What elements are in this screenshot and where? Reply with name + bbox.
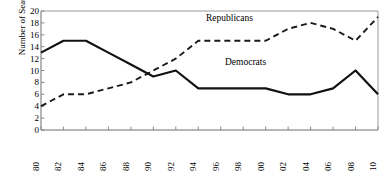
plot-frame (41, 11, 378, 130)
x-tick-label-text: 1982 (54, 162, 63, 171)
y-tick-6: 6 (35, 90, 40, 99)
x-tick-label-text: 1980 (32, 162, 41, 171)
x-tick-2008: 2008 (350, 135, 361, 171)
series-annotation-republicans: Republicans (206, 13, 253, 23)
y-tick-12: 12 (30, 54, 39, 63)
line-chart: Number of Seats 02468101214161820 Republ… (0, 0, 392, 171)
series-line-democrats (41, 41, 378, 95)
plot-area (41, 11, 378, 130)
x-tick-1992: 1992 (170, 135, 181, 171)
x-tick-label-text: 1984 (77, 162, 86, 171)
x-tick-1996: 1996 (215, 135, 226, 171)
axis-tick-marks (41, 11, 378, 130)
x-tick-label-text: 2006 (324, 162, 333, 171)
y-tick-10: 10 (30, 66, 39, 75)
x-axis-tick-labels: 1980198219841986198819901992199419961998… (41, 133, 378, 171)
x-tick-label-text: 1988 (122, 162, 131, 171)
x-tick-2000: 2000 (260, 135, 271, 171)
y-tick-0: 0 (35, 126, 40, 135)
series-line-republicans (41, 17, 378, 106)
y-tick-16: 16 (30, 30, 39, 39)
x-tick-1998: 1998 (238, 135, 249, 171)
x-tick-label-text: 2000 (257, 162, 266, 171)
x-tick-1986: 1986 (103, 135, 114, 171)
x-tick-2002: 2002 (283, 135, 294, 171)
x-tick-1988: 1988 (125, 135, 136, 171)
x-tick-label-text: 2002 (279, 162, 288, 171)
y-tick-18: 18 (30, 18, 39, 27)
x-tick-1994: 1994 (193, 135, 204, 171)
x-tick-label-text: 2010 (369, 162, 378, 171)
x-tick-1982: 1982 (58, 135, 69, 171)
x-tick-label-text: 2008 (347, 162, 356, 171)
plot-svg (41, 11, 378, 130)
y-tick-2: 2 (35, 114, 40, 123)
x-tick-1984: 1984 (80, 135, 91, 171)
x-tick-label-text: 1990 (144, 162, 153, 171)
x-tick-1990: 1990 (148, 135, 159, 171)
series-annotation-democrats: Democrats (225, 57, 266, 67)
y-axis-tick-labels: 02468101214161820 (22, 6, 39, 134)
x-tick-label-text: 1996 (212, 162, 221, 171)
x-tick-label-text: 2004 (302, 162, 311, 171)
x-tick-label-text: 1986 (99, 162, 108, 171)
x-tick-2006: 2006 (328, 135, 339, 171)
x-tick-label-text: 1998 (234, 162, 243, 171)
x-tick-1980: 1980 (36, 135, 47, 171)
x-tick-label-text: 1994 (189, 162, 198, 171)
x-tick-2010: 2010 (373, 135, 384, 171)
y-tick-20: 20 (30, 7, 39, 16)
y-tick-8: 8 (35, 78, 40, 87)
y-tick-4: 4 (35, 102, 40, 111)
x-tick-label-text: 1992 (167, 162, 176, 171)
y-tick-14: 14 (30, 42, 39, 51)
x-tick-2004: 2004 (305, 135, 316, 171)
